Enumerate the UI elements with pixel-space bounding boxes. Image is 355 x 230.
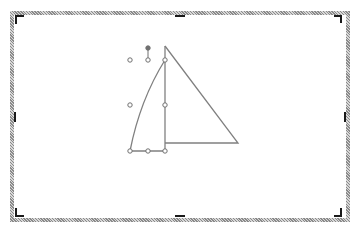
crop-mark-bottom-left	[16, 208, 24, 216]
crop-mark-top-left	[16, 16, 24, 24]
crop-marks	[15, 16, 345, 216]
crop-mark-bottom-right	[334, 208, 341, 216]
right-sail[interactable]	[165, 46, 238, 143]
handle-middle-left[interactable]	[128, 103, 132, 107]
handle-top-right[interactable]	[163, 58, 167, 62]
handle-top-left[interactable]	[128, 58, 132, 62]
left-sail[interactable]	[130, 60, 165, 151]
handle-bottom-left[interactable]	[128, 149, 132, 153]
handle-middle-right[interactable]	[163, 103, 167, 107]
rotation-handle[interactable]	[146, 46, 150, 50]
drawing-canvas[interactable]	[0, 0, 355, 230]
handle-bottom-right[interactable]	[163, 149, 167, 153]
crop-mark-top-right	[334, 16, 341, 23]
handle-top-center[interactable]	[146, 58, 150, 62]
handle-bottom-center[interactable]	[146, 149, 150, 153]
